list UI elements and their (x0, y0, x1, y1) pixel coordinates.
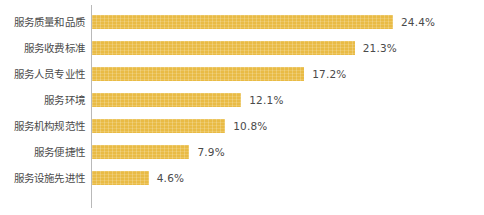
bar-group: 21.3% (92, 41, 397, 55)
value-label: 17.2% (312, 68, 346, 80)
category-label: 服务设施先进性 (0, 171, 85, 185)
bar-row[interactable]: 服务环境 12.1% (0, 87, 484, 113)
value-label: 4.6% (157, 172, 184, 184)
category-label: 服务人员专业性 (0, 67, 85, 81)
bar-row[interactable]: 服务质量和品质 24.4% (0, 9, 484, 35)
value-label: 12.1% (249, 94, 283, 106)
value-label: 7.9% (197, 146, 224, 158)
bar[interactable] (92, 93, 241, 107)
category-label: 服务质量和品质 (0, 15, 85, 29)
bar-row[interactable]: 服务机构规范性 10.8% (0, 113, 484, 139)
bar-group: 4.6% (92, 171, 184, 185)
bar[interactable] (92, 67, 304, 81)
value-label: 21.3% (363, 42, 397, 54)
category-label: 服务环境 (0, 93, 85, 107)
bar-row[interactable]: 服务设施先进性 4.6% (0, 165, 484, 191)
bar[interactable] (92, 171, 149, 185)
category-label: 服务便捷性 (0, 145, 85, 159)
horizontal-bar-chart: 服务质量和品质 24.4% 服务收费标准 21.3% 服务人员专业性 17.2% (0, 0, 484, 215)
bar-row[interactable]: 服务收费标准 21.3% (0, 35, 484, 61)
bar-group: 12.1% (92, 93, 284, 107)
bar-group: 10.8% (92, 119, 268, 133)
bar-row[interactable]: 服务人员专业性 17.2% (0, 61, 484, 87)
category-label: 服务收费标准 (0, 41, 85, 55)
bar-rows: 服务质量和品质 24.4% 服务收费标准 21.3% 服务人员专业性 17.2% (0, 9, 484, 191)
bar[interactable] (92, 119, 225, 133)
bar-row[interactable]: 服务便捷性 7.9% (0, 139, 484, 165)
bar-group: 24.4% (92, 15, 435, 29)
bar[interactable] (92, 145, 189, 159)
bar-group: 7.9% (92, 145, 225, 159)
value-label: 24.4% (401, 16, 435, 28)
plot-area: 服务质量和品质 24.4% 服务收费标准 21.3% 服务人员专业性 17.2% (0, 0, 484, 215)
bar[interactable] (92, 15, 393, 29)
category-label: 服务机构规范性 (0, 119, 85, 133)
bar[interactable] (92, 41, 355, 55)
bar-group: 17.2% (92, 67, 346, 81)
value-label: 10.8% (233, 120, 267, 132)
